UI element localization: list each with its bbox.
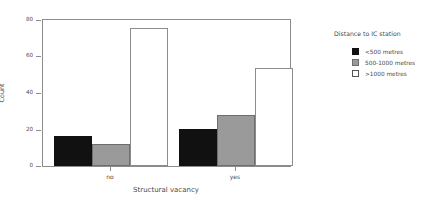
y-axis: Count 80 60 40 20 0	[0, 0, 42, 204]
legend-title: Distance to IC station	[334, 30, 426, 37]
y-tick-mark-20	[36, 130, 41, 131]
y-tick-mark-40	[36, 93, 41, 94]
bar-no-gt1000	[130, 28, 168, 166]
x-tick-label-yes: yes	[230, 173, 240, 180]
bar-no-lt500	[54, 136, 92, 166]
legend-label-lt500: <500 metres	[365, 49, 403, 55]
legend-swatch-gray-icon	[352, 59, 359, 66]
y-tick-label-60: 60	[26, 53, 33, 59]
y-tick-label-80: 80	[26, 17, 33, 23]
y-tick-label-0: 0	[29, 163, 33, 169]
x-tick-mark-yes	[235, 167, 236, 171]
legend-label-gt1000: >1000 metres	[365, 71, 407, 77]
legend: Distance to IC station <500 metres 500-1…	[334, 30, 426, 79]
y-tick-mark-80	[36, 20, 41, 21]
bar-yes-500to1000	[217, 115, 255, 166]
x-axis-title: Structural vacancy	[133, 186, 199, 194]
bar-yes-gt1000	[255, 68, 293, 166]
plot-area	[42, 19, 291, 167]
y-tick-label-40: 40	[26, 90, 33, 96]
y-tick-mark-60	[36, 56, 41, 57]
y-tick-label-20: 20	[26, 127, 33, 133]
x-tick-mark-no	[110, 167, 111, 171]
bar-yes-lt500	[179, 129, 217, 166]
y-axis-title: Count	[0, 84, 6, 103]
legend-label-500to1000: 500-1000 metres	[365, 60, 415, 66]
legend-item-lt500: <500 metres	[352, 46, 426, 57]
legend-item-500to1000: 500-1000 metres	[352, 57, 426, 68]
legend-swatch-white-icon	[352, 70, 359, 77]
bar-no-500to1000	[92, 144, 130, 166]
y-tick-mark-0	[36, 166, 41, 167]
x-tick-label-no: no	[106, 173, 113, 180]
legend-item-gt1000: >1000 metres	[352, 68, 426, 79]
bar-chart-figure: Count 80 60 40 20 0 no yes Structural va…	[0, 0, 428, 204]
legend-swatch-black-icon	[352, 48, 359, 55]
